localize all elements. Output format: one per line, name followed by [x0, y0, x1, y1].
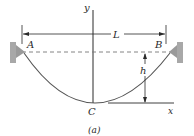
cable-curve: [24, 53, 170, 103]
right-support-block: [177, 42, 183, 63]
figure-caption: (a): [88, 125, 101, 135]
sag-arrow-down-icon: [143, 97, 147, 103]
left-support-block: [10, 42, 16, 63]
sag-label: h: [140, 65, 146, 76]
span-label: L: [112, 29, 120, 40]
point-a-label: A: [26, 39, 34, 50]
diagram-canvas: y L A B x h C (a): [0, 0, 194, 136]
point-c-label: C: [88, 106, 96, 117]
left-support-bracket-icon: [16, 45, 25, 58]
sag-arrow-up-icon: [143, 53, 147, 59]
span-arrow-left-icon: [23, 32, 29, 36]
span-arrow-right-icon: [159, 32, 165, 36]
x-axis-label: x: [168, 106, 173, 116]
right-support-bracket-icon: [169, 45, 177, 58]
y-axis-label: y: [83, 2, 90, 13]
cable-diagram: y L A B x h C (a): [0, 0, 194, 136]
point-b-label: B: [154, 39, 162, 50]
